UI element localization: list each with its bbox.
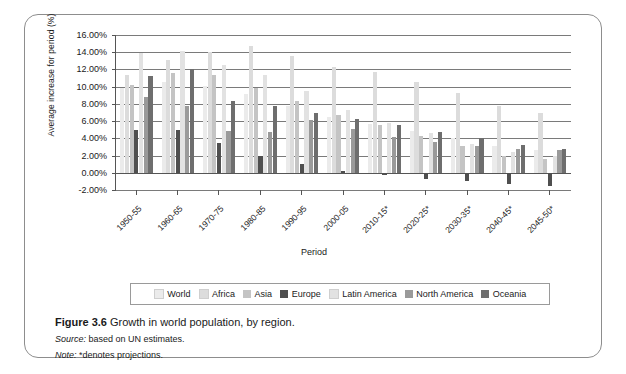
x-tick-label: 1950-55 xyxy=(102,203,143,244)
x-axis-title: Period xyxy=(25,247,603,257)
bar xyxy=(538,113,542,173)
bar xyxy=(460,146,464,173)
bar xyxy=(304,91,308,173)
bar xyxy=(492,146,496,173)
x-tick-mark xyxy=(177,190,178,195)
x-tick-label: 2040-45* xyxy=(474,203,515,244)
bar xyxy=(497,106,501,173)
bar xyxy=(314,113,318,173)
bar xyxy=(327,117,331,173)
bar xyxy=(180,51,184,173)
bar xyxy=(268,132,272,172)
bar xyxy=(171,73,175,173)
bar xyxy=(336,115,340,173)
bar xyxy=(226,131,230,173)
bar xyxy=(162,82,166,173)
bar xyxy=(548,173,552,186)
legend-item[interactable]: Asia xyxy=(243,289,272,299)
legend-item[interactable]: Africa xyxy=(199,289,236,299)
legend-swatch-icon xyxy=(481,290,489,298)
bar xyxy=(562,149,566,173)
bar xyxy=(479,138,483,172)
legend-label: World xyxy=(167,289,190,299)
bar xyxy=(368,124,372,173)
bar xyxy=(290,56,294,173)
bar xyxy=(309,120,313,173)
bar xyxy=(419,136,423,173)
bar xyxy=(373,72,377,173)
bar xyxy=(465,173,469,182)
x-tick-mark xyxy=(425,190,426,195)
plot-region xyxy=(115,35,571,190)
bar xyxy=(424,173,428,179)
legend-item[interactable]: Europe xyxy=(280,289,321,299)
bar xyxy=(516,149,520,173)
legend-item[interactable]: North America xyxy=(405,289,474,299)
legend-label: Latin America xyxy=(342,289,397,299)
bar xyxy=(470,144,474,173)
bar xyxy=(222,65,226,173)
x-tick-label: 2030-35* xyxy=(433,203,474,244)
figure-number: Figure 3.6 xyxy=(55,316,107,328)
bar xyxy=(378,125,382,172)
x-tick-mark xyxy=(343,190,344,195)
bar xyxy=(341,171,345,173)
bar xyxy=(120,88,124,172)
bar xyxy=(295,101,299,172)
gridline xyxy=(116,190,571,191)
y-tick-label: 4.00% xyxy=(55,133,107,143)
bar xyxy=(392,137,396,173)
bar xyxy=(351,129,355,173)
legend-label: Africa xyxy=(212,289,235,299)
figure-source-line: Source: based on UN estimates. xyxy=(55,332,575,346)
legend-swatch-icon xyxy=(280,290,288,298)
bar xyxy=(397,125,401,172)
legend-item[interactable]: World xyxy=(154,289,191,299)
bar xyxy=(332,67,336,173)
bar xyxy=(456,93,460,173)
bar xyxy=(231,101,235,172)
bar xyxy=(387,123,391,173)
x-tick-label: 2045-50* xyxy=(516,203,557,244)
bar xyxy=(511,152,515,173)
bar xyxy=(475,146,479,173)
legend-item[interactable]: Latin America xyxy=(329,289,397,299)
bar xyxy=(208,52,212,173)
x-tick-mark xyxy=(467,190,468,195)
bar-group xyxy=(410,35,443,190)
bar xyxy=(438,132,442,172)
bar-group xyxy=(492,35,525,190)
bar xyxy=(254,88,258,173)
legend-swatch-icon xyxy=(329,289,339,299)
bar-group xyxy=(120,35,153,190)
bar-group xyxy=(203,35,236,190)
x-tick-mark xyxy=(136,190,137,195)
legend-swatch-icon xyxy=(199,289,209,299)
bar xyxy=(139,53,143,173)
bar xyxy=(125,75,129,173)
bar xyxy=(134,130,138,173)
source-label: Source: xyxy=(55,334,86,344)
chart-area: Average increase for period (%) 16.00%14… xyxy=(25,15,603,273)
x-tick-mark xyxy=(218,190,219,195)
y-tick-label: -2.00% xyxy=(55,185,107,195)
figure-title-text: Growth in world population, by region. xyxy=(110,316,295,328)
bar xyxy=(203,86,207,173)
x-tick-mark xyxy=(384,190,385,195)
y-tick-label: 0.00% xyxy=(55,168,107,178)
chart-legend: WorldAfricaAsiaEuropeLatin AmericaNorth … xyxy=(130,283,550,305)
x-tick-mark xyxy=(260,190,261,195)
x-tick-mark xyxy=(508,190,509,195)
bar xyxy=(521,145,525,173)
bar xyxy=(433,142,437,173)
bar xyxy=(258,156,262,172)
bar xyxy=(166,60,170,173)
bar xyxy=(382,173,386,176)
bar-group xyxy=(451,35,484,190)
x-tick-mark xyxy=(549,190,550,195)
bar xyxy=(190,69,194,173)
note-label: Note: xyxy=(55,350,77,360)
bar xyxy=(244,94,248,173)
legend-label: Europe xyxy=(292,289,321,299)
legend-item[interactable]: Oceania xyxy=(481,289,526,299)
